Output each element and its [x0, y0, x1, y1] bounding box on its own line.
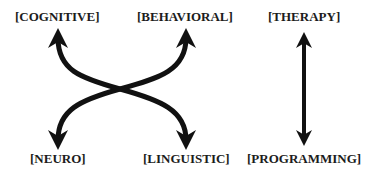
double-arrow-cognitive-linguistic-icon: [58, 38, 186, 140]
diagram-canvas: [COGNITIVE] [BEHAVIORAL] [THERAPY] [NEUR…: [0, 0, 373, 178]
arrows-layer: [0, 0, 373, 178]
